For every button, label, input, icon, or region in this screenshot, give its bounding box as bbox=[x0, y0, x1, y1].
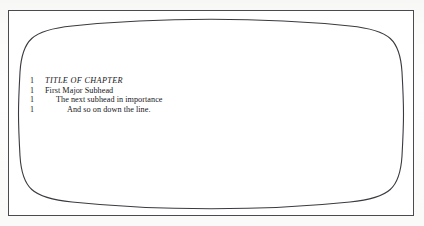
screen-text-block: 1 TITLE OF CHAPTER 1 First Major Subhead… bbox=[30, 76, 360, 114]
line-number: 1 bbox=[30, 86, 45, 96]
outline-entry-subhead-2: The next subhead in importance bbox=[45, 95, 163, 105]
outline-row: 1 And so on down the line. bbox=[30, 105, 360, 115]
line-number: 1 bbox=[30, 105, 45, 115]
outline-entry-subhead-1: First Major Subhead bbox=[45, 86, 113, 96]
outline-entry-title: TITLE OF CHAPTER bbox=[45, 76, 123, 86]
figure-root: 1 TITLE OF CHAPTER 1 First Major Subhead… bbox=[0, 0, 424, 226]
outline-entry-subhead-3: And so on down the line. bbox=[45, 105, 151, 115]
line-number: 1 bbox=[30, 95, 45, 105]
line-number: 1 bbox=[30, 76, 45, 86]
outline-row: 1 TITLE OF CHAPTER bbox=[30, 76, 360, 86]
outline-row: 1 First Major Subhead bbox=[30, 86, 360, 96]
outline-row: 1 The next subhead in importance bbox=[30, 95, 360, 105]
